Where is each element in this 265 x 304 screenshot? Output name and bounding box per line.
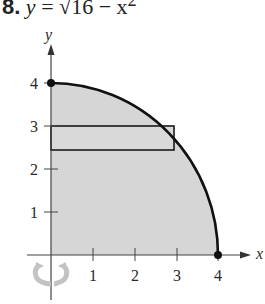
y-axis-label: y (43, 26, 53, 44)
endpoint-0-4 (47, 79, 55, 87)
problem-number: 8. (2, 0, 20, 19)
graph: y x 1 2 3 4 1 2 3 4 (0, 0, 265, 304)
x-axis-arrow-icon (240, 252, 251, 259)
radicand: 16 − x (71, 0, 127, 19)
y-tick-label-4: 4 (30, 75, 38, 92)
x-tick-label-3: 3 (173, 267, 181, 284)
x-tick-label-4: 4 (214, 267, 222, 284)
representative-rectangle (51, 126, 174, 150)
equals-sign: = (41, 0, 53, 19)
exponent: 2 (128, 0, 137, 10)
radical-sign: √ (59, 0, 71, 19)
x-tick-label-1: 1 (89, 267, 97, 284)
y-tick-label-3: 3 (30, 118, 38, 135)
equation-header: 8. y = √16 − x2 (2, 0, 137, 20)
equation-lhs: y (26, 0, 36, 19)
shaded-region (51, 83, 218, 255)
figure: 8. y = √16 − x2 y x 1 2 3 4 (0, 0, 265, 304)
y-tick-label-1: 1 (30, 204, 38, 221)
endpoint-4-0 (214, 251, 222, 259)
y-axis-arrow-icon (48, 44, 55, 55)
y-tick-label-2: 2 (30, 161, 38, 178)
x-tick-label-2: 2 (131, 267, 139, 284)
x-axis-label: x (255, 245, 263, 262)
